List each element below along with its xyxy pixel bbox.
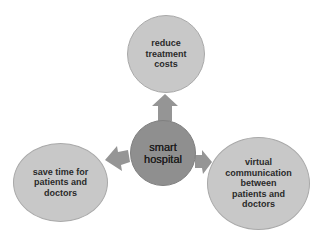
node-label: virtual communication between patients a… — [225, 157, 292, 210]
node-virtual-communication: virtual communication between patients a… — [207, 137, 310, 230]
node-save-time: save time for patients and doctors — [13, 143, 108, 222]
node-smart-hospital: smart hospital — [130, 120, 196, 186]
arrow-up-icon — [152, 94, 178, 121]
arrow-left-icon — [105, 146, 130, 171]
node-reduce-treatment-costs: reduce treatment costs — [127, 15, 205, 93]
node-label: save time for patients and doctors — [33, 167, 89, 199]
center-label: smart hospital — [144, 141, 182, 166]
node-label: reduce treatment costs — [145, 38, 186, 70]
